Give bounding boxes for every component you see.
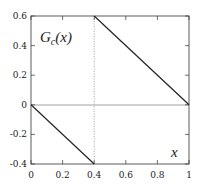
x-tick-labels: 0 0.2 0.4 0.6 0.8 1 (28, 170, 192, 180)
x-tick-0.2: 0.2 (55, 170, 69, 180)
y-tick-labels: 0.6 0.4 0.2 0 -0.2 -0.4 (10, 11, 28, 169)
x-tick-0.4: 0.4 (87, 170, 102, 180)
y-tick-0.4: 0.4 (13, 41, 28, 51)
y-label-arg: (x) (55, 29, 72, 46)
series-segment-2 (94, 16, 189, 105)
chart-canvas: 0.6 0.4 0.2 0 -0.2 -0.4 0 0.2 0.4 0.6 0.… (0, 0, 205, 187)
y-tick-neg0.4: -0.4 (10, 159, 28, 169)
x-tick-0.8: 0.8 (150, 170, 165, 180)
y-label-main: G (40, 29, 51, 45)
y-tick-0.6: 0.6 (13, 11, 28, 21)
x-axis-label: x (170, 144, 178, 160)
x-tick-0.6: 0.6 (119, 170, 134, 180)
y-tick-0: 0 (21, 100, 27, 110)
y-axis-label: Gc(x) (40, 29, 72, 47)
x-tick-0: 0 (28, 170, 34, 180)
series-segment-1 (31, 105, 94, 164)
y-tick-neg0.2: -0.2 (10, 129, 27, 139)
y-tick-0.2: 0.2 (13, 70, 27, 80)
x-tick-1: 1 (186, 170, 192, 180)
